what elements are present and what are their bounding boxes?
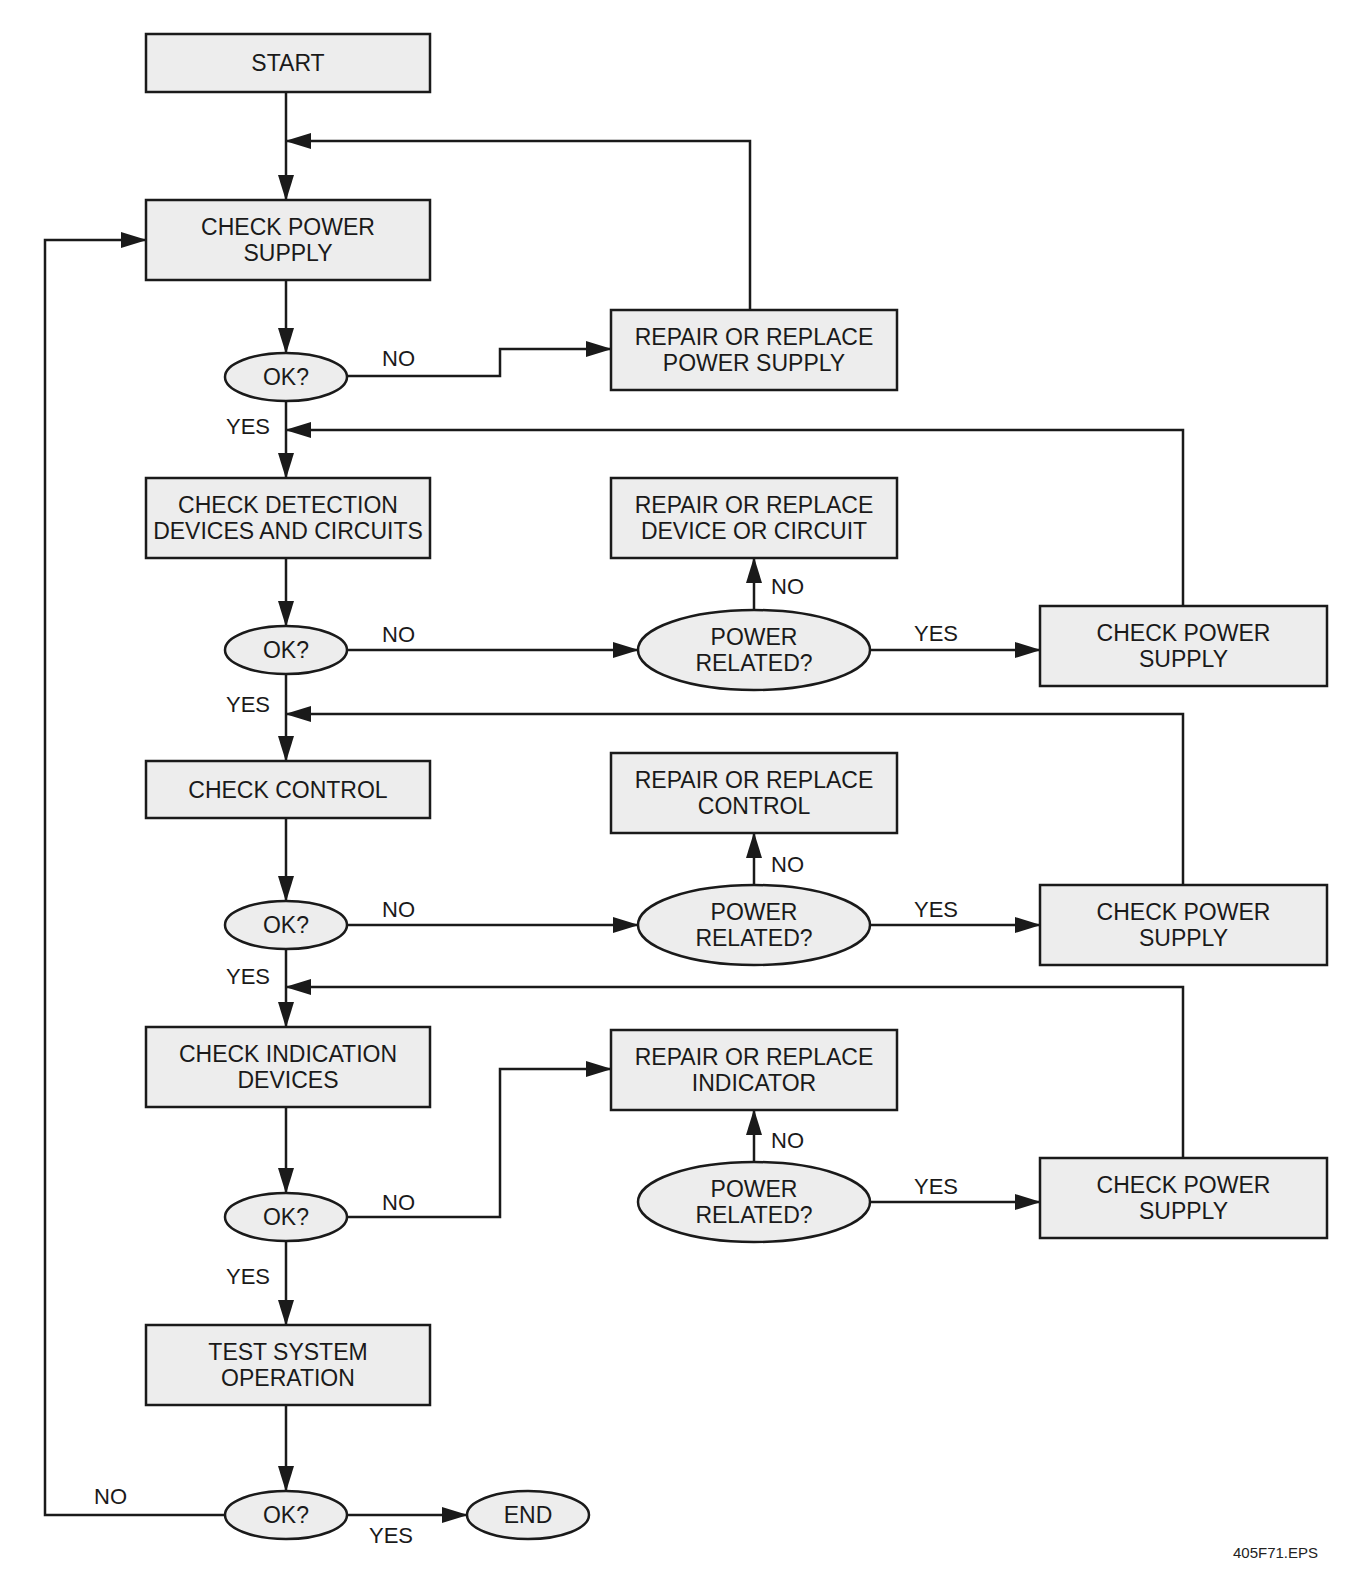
node-label: TEST SYSTEM xyxy=(208,1339,367,1365)
node-label: INDICATOR xyxy=(692,1070,816,1096)
node-label: RELATED? xyxy=(695,1202,812,1228)
node-label: DEVICES AND CIRCUITS xyxy=(153,518,423,544)
edge-label-no: NO xyxy=(382,897,415,922)
edge-label-no: NO xyxy=(382,1190,415,1215)
node-label: OK? xyxy=(263,637,309,663)
node-ok1: OK? xyxy=(225,353,347,401)
node-label: CHECK POWER xyxy=(1097,620,1271,646)
node-label: CHECK POWER xyxy=(201,214,375,240)
node-repair-device: REPAIR OR REPLACEDEVICE OR CIRCUIT xyxy=(611,478,897,558)
edge-label-yes: YES xyxy=(226,414,270,439)
node-label: REPAIR OR REPLACE xyxy=(635,1044,874,1070)
node-label: SUPPLY xyxy=(243,240,332,266)
node-label: RELATED? xyxy=(695,925,812,951)
node-power-related3: POWERRELATED? xyxy=(638,1162,870,1242)
node-label: CHECK POWER xyxy=(1097,899,1271,925)
nodes-layer: STARTCHECK POWERSUPPLYOK?REPAIR OR REPLA… xyxy=(146,34,1327,1539)
edge-label-yes: YES xyxy=(226,692,270,717)
node-check-power-supply4: CHECK POWERSUPPLY xyxy=(1040,1158,1327,1238)
node-check-indication: CHECK INDICATIONDEVICES xyxy=(146,1027,430,1107)
node-label: CONTROL xyxy=(698,793,811,819)
node-check-control: CHECK CONTROL xyxy=(146,761,430,818)
node-test-system: TEST SYSTEMOPERATION xyxy=(146,1325,430,1405)
edge-label-yes: YES xyxy=(226,1264,270,1289)
node-label: RELATED? xyxy=(695,650,812,676)
node-label: CHECK DETECTION xyxy=(178,492,398,518)
node-label: SUPPLY xyxy=(1139,646,1228,672)
node-ok2: OK? xyxy=(225,626,347,674)
node-label: OK? xyxy=(263,1502,309,1528)
edge-label-no: NO xyxy=(94,1484,127,1509)
node-label: REPAIR OR REPLACE xyxy=(635,767,874,793)
node-label: REPAIR OR REPLACE xyxy=(635,492,874,518)
edge-label-yes: YES xyxy=(369,1523,413,1548)
edge-label-no: NO xyxy=(382,622,415,647)
node-label: REPAIR OR REPLACE xyxy=(635,324,874,350)
node-label: POWER xyxy=(711,624,798,650)
node-check-power-supply: CHECK POWERSUPPLY xyxy=(146,200,430,280)
node-label: POWER SUPPLY xyxy=(663,350,845,376)
edge-label-no: NO xyxy=(771,852,804,877)
node-label: CHECK CONTROL xyxy=(188,777,388,803)
node-label: START xyxy=(251,50,324,76)
node-label: CHECK POWER xyxy=(1097,1172,1271,1198)
node-ok3: OK? xyxy=(225,901,347,949)
node-repair-indicator: REPAIR OR REPLACEINDICATOR xyxy=(611,1030,897,1110)
node-end: END xyxy=(467,1491,589,1539)
node-label: CHECK INDICATION xyxy=(179,1041,397,1067)
node-label: POWER xyxy=(711,1176,798,1202)
node-check-detection: CHECK DETECTIONDEVICES AND CIRCUITS xyxy=(146,478,430,558)
node-start: START xyxy=(146,34,430,92)
edge-label-no: NO xyxy=(382,346,415,371)
edge-label-no: NO xyxy=(771,1128,804,1153)
node-label: OPERATION xyxy=(221,1365,355,1391)
node-label: OK? xyxy=(263,912,309,938)
node-label: OK? xyxy=(263,364,309,390)
node-label: DEVICES xyxy=(238,1067,339,1093)
edge-label-yes: YES xyxy=(914,1174,958,1199)
node-label: SUPPLY xyxy=(1139,1198,1228,1224)
node-label: SUPPLY xyxy=(1139,925,1228,951)
node-label: POWER xyxy=(711,899,798,925)
node-label: DEVICE OR CIRCUIT xyxy=(641,518,867,544)
node-check-power-supply2: CHECK POWERSUPPLY xyxy=(1040,606,1327,686)
node-power-related1: POWERRELATED? xyxy=(638,610,870,690)
node-label: END xyxy=(504,1502,553,1528)
node-check-power-supply3: CHECK POWERSUPPLY xyxy=(1040,885,1327,965)
edge-label-no: NO xyxy=(771,574,804,599)
node-repair-control: REPAIR OR REPLACECONTROL xyxy=(611,753,897,833)
edge-label-yes: YES xyxy=(226,964,270,989)
edge-label-yes: YES xyxy=(914,621,958,646)
node-repair-power-supply: REPAIR OR REPLACEPOWER SUPPLY xyxy=(611,310,897,390)
node-label: OK? xyxy=(263,1204,309,1230)
figure-caption: 405F71.EPS xyxy=(1233,1544,1318,1561)
edge-label-yes: YES xyxy=(914,897,958,922)
node-power-related2: POWERRELATED? xyxy=(638,885,870,965)
troubleshooting-flowchart: STARTCHECK POWERSUPPLYOK?REPAIR OR REPLA… xyxy=(0,0,1364,1572)
node-ok5: OK? xyxy=(225,1491,347,1539)
node-ok4: OK? xyxy=(225,1193,347,1241)
